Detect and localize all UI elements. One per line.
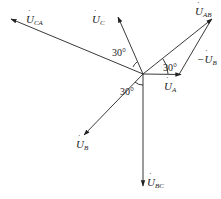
svg-text:·: · [78, 131, 81, 140]
angle-label-ua-uab: 30° [163, 62, 177, 73]
phasor-diagram: 30° 30° 30° UCA · UC · UAB · −UB · UA · … [0, 0, 221, 199]
svg-text:UC: UC [92, 13, 105, 27]
phasor-uab [143, 19, 212, 74]
svg-text:·: · [94, 6, 97, 15]
angle-arc-ub-ubc [135, 82, 143, 85]
svg-text:UCA: UCA [26, 13, 44, 27]
label-ua: UA · [164, 73, 177, 94]
label-neg-ub: −UB · [197, 46, 217, 67]
label-ub: UB · [76, 131, 89, 152]
phasor-ub [84, 74, 143, 135]
angle-label-ub-ubc: 30° [120, 86, 134, 97]
angle-label-uc-uca: 30° [112, 47, 126, 58]
label-uca: UCA · [26, 6, 44, 27]
angle-arc-uc-uca [133, 62, 137, 67]
svg-text:·: · [205, 46, 208, 55]
label-uc: UC · [92, 6, 105, 27]
svg-text:−UB: −UB [197, 53, 217, 67]
svg-text:UBC: UBC [147, 176, 164, 190]
svg-text:UB: UB [76, 138, 89, 152]
svg-text:·: · [166, 73, 169, 82]
label-ubc: UBC · [147, 169, 164, 190]
svg-text:·: · [28, 6, 31, 15]
svg-text:·: · [197, 0, 200, 7]
svg-text:UAB: UAB [195, 5, 212, 19]
svg-text:·: · [149, 169, 152, 178]
label-uab: UAB · [195, 0, 212, 19]
phasor-ua [143, 74, 181, 75]
svg-text:UA: UA [164, 80, 177, 94]
